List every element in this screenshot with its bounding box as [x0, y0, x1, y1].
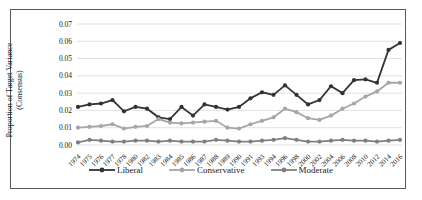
- liberal-marker: [306, 102, 310, 106]
- moderate-marker: [202, 139, 206, 143]
- liberal-marker: [191, 114, 195, 118]
- conservative-marker: [202, 120, 206, 124]
- conservative-marker: [260, 119, 264, 123]
- y-tick-label: 0.02: [59, 106, 72, 115]
- liberal-marker: [340, 91, 344, 95]
- conservative-marker: [317, 118, 321, 122]
- legend-label: Moderate: [299, 165, 333, 175]
- conservative-marker: [329, 114, 333, 118]
- liberal-marker: [179, 105, 183, 109]
- y-tick-label: 0.05: [59, 54, 72, 63]
- conservative-marker: [156, 117, 160, 121]
- moderate-marker: [386, 139, 390, 143]
- liberal-marker: [260, 90, 264, 94]
- moderate-marker: [294, 138, 298, 142]
- conservative-marker: [179, 121, 183, 125]
- moderate-marker: [271, 138, 275, 142]
- legend-marker-icon: [271, 166, 297, 174]
- liberal-marker: [329, 84, 333, 88]
- legend-marker-icon: [89, 166, 115, 174]
- moderate-marker: [237, 139, 241, 143]
- moderate-marker: [306, 139, 310, 143]
- y-tick-label: 0.06: [59, 37, 72, 46]
- moderate-marker: [179, 139, 183, 143]
- liberal-marker: [317, 98, 321, 102]
- moderate-marker: [283, 136, 287, 140]
- moderate-marker: [375, 139, 379, 143]
- liberal-marker: [248, 96, 252, 100]
- liberal-marker: [294, 93, 298, 97]
- moderate-marker: [133, 139, 137, 143]
- y-tick-label: 0.07: [59, 20, 72, 29]
- moderate-marker: [76, 140, 80, 144]
- moderate-marker: [191, 139, 195, 143]
- legend-label: Liberal: [117, 165, 143, 175]
- y-tick-label: 0.01: [59, 123, 72, 132]
- liberal-marker: [225, 107, 229, 111]
- moderate-marker: [352, 139, 356, 143]
- conservative-marker: [87, 125, 91, 129]
- conservative-marker: [110, 122, 114, 126]
- conservative-marker: [191, 120, 195, 124]
- conservative-marker: [271, 115, 275, 119]
- conservative-marker: [99, 124, 103, 128]
- conservative-marker: [283, 107, 287, 111]
- liberal-marker: [214, 105, 218, 109]
- moderate-marker: [363, 139, 367, 143]
- conservative-marker: [168, 120, 172, 124]
- legend-label: Conservative: [197, 165, 245, 175]
- chart-figure: Proportion of Target Variance (Consensus…: [0, 0, 422, 200]
- conservative-marker: [386, 81, 390, 85]
- liberal-marker: [237, 105, 241, 109]
- liberal-marker: [352, 78, 356, 82]
- conservative-marker: [375, 89, 379, 93]
- moderate-marker: [329, 139, 333, 143]
- liberal-marker: [283, 83, 287, 87]
- moderate-marker: [122, 139, 126, 143]
- liberal-marker: [76, 105, 80, 109]
- conservative-marker: [145, 124, 149, 128]
- moderate-marker: [87, 138, 91, 142]
- conservative-marker: [340, 107, 344, 111]
- liberal-marker: [271, 93, 275, 97]
- liberal-marker: [386, 48, 390, 52]
- moderate-marker: [145, 139, 149, 143]
- conservative-marker: [306, 116, 310, 120]
- y-tick-label: 0.04: [59, 71, 72, 80]
- moderate-marker: [110, 139, 114, 143]
- liberal-marker: [375, 81, 379, 85]
- liberal-marker: [122, 109, 126, 113]
- legend-item-moderate: Moderate: [271, 165, 333, 175]
- moderate-marker: [156, 139, 160, 143]
- moderate-marker: [260, 139, 264, 143]
- legend: LiberalConservativeModerate: [0, 165, 422, 175]
- liberal-marker: [110, 98, 114, 102]
- conservative-marker: [398, 81, 402, 85]
- moderate-marker: [99, 139, 103, 143]
- moderate-marker: [398, 138, 402, 142]
- moderate-marker: [214, 138, 218, 142]
- conservative-marker: [133, 125, 137, 129]
- liberal-marker: [87, 102, 91, 106]
- liberal-marker: [202, 102, 206, 106]
- conservative-marker: [76, 126, 80, 130]
- liberal-marker: [99, 101, 103, 105]
- conservative-marker: [248, 122, 252, 126]
- conservative-marker: [352, 101, 356, 105]
- conservative-marker: [225, 126, 229, 130]
- moderate-marker: [168, 139, 172, 143]
- liberal-marker: [145, 107, 149, 111]
- conservative-marker: [122, 126, 126, 130]
- conservative-marker: [237, 126, 241, 130]
- legend-marker-icon: [169, 166, 195, 174]
- legend-item-liberal: Liberal: [89, 165, 143, 175]
- liberal-marker: [363, 77, 367, 81]
- moderate-marker: [317, 139, 321, 143]
- moderate-marker: [340, 138, 344, 142]
- conservative-marker: [363, 95, 367, 99]
- y-tick-label: 0.00: [59, 141, 72, 150]
- y-tick-label: 0.03: [59, 89, 72, 98]
- conservative-marker: [214, 119, 218, 123]
- legend-item-conservative: Conservative: [169, 165, 245, 175]
- liberal-marker: [133, 105, 137, 109]
